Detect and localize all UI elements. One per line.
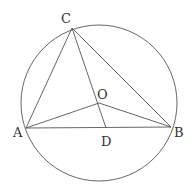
segment-bc [72,28,171,127]
point-label-a: A [12,125,23,140]
segment-ob [99,103,171,127]
geometry-diagram: ABCOD [0,0,195,195]
segment-ab [26,127,171,128]
point-label-b: B [174,125,184,140]
segment-cd [72,28,106,128]
point-label-o: O [97,87,108,102]
point-label-d: D [101,134,111,149]
segment-oa [26,103,99,128]
point-label-c: C [61,11,71,26]
